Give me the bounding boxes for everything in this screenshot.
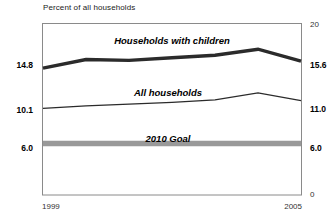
x-tick-2005: 2005	[284, 202, 302, 211]
series-label-all-households: All households	[133, 87, 202, 98]
x-tick-1999: 1999	[42, 202, 60, 211]
series-label-2010-goal: 2010 Goal	[145, 133, 191, 144]
left-tick-60: 6.0	[21, 143, 33, 153]
chart-container: Percent of all households 14.8 10.1 6.0 …	[0, 0, 330, 217]
left-tick-148: 14.8	[16, 60, 33, 70]
left-tick-101: 10.1	[16, 105, 33, 115]
right-tick-20: 20	[310, 20, 319, 29]
right-tick-156: 15.6	[310, 60, 327, 70]
right-tick-110: 11.0	[310, 104, 326, 114]
right-tick-60: 6.0	[310, 143, 322, 153]
series-label-households-with-children: Households with children	[114, 35, 230, 46]
right-tick-0: 0	[310, 190, 315, 199]
chart-figure: 14.8 10.1 6.0 20 15.6 11.0 6.0 0 1999 20…	[0, 0, 330, 217]
